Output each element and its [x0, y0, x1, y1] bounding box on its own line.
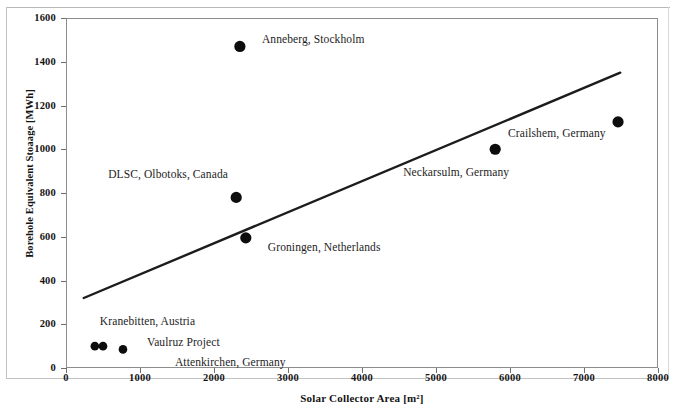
- data-point-marker: [490, 144, 501, 155]
- data-point-marker: [612, 116, 623, 127]
- data-point-label: Groningen, Netherlands: [268, 242, 381, 254]
- data-point-label: Crailshem, Germany: [508, 128, 606, 140]
- trendline-group: [84, 73, 621, 298]
- data-layer: [0, 0, 677, 418]
- data-point-marker: [234, 41, 245, 52]
- trendline: [84, 73, 621, 298]
- data-point-label: Kranebitten, Austria: [100, 316, 195, 328]
- chart-figure: 0200400600800100012001400160001000200030…: [0, 0, 677, 418]
- data-point-marker: [99, 342, 108, 351]
- marker-group: [91, 41, 624, 354]
- data-point-label: Vaulruz Project: [147, 337, 220, 349]
- data-point-marker: [119, 345, 128, 354]
- data-point-marker: [240, 232, 251, 243]
- data-point-label: Anneberg, Stockholm: [262, 34, 365, 46]
- data-point-marker: [91, 342, 100, 351]
- data-point-marker: [231, 192, 242, 203]
- data-point-label: DLSC, Olbotoks, Canada: [108, 169, 228, 181]
- data-point-label: Attenkirchen, Germany: [175, 357, 286, 369]
- data-point-label: Neckarsulm, Germany: [403, 167, 509, 179]
